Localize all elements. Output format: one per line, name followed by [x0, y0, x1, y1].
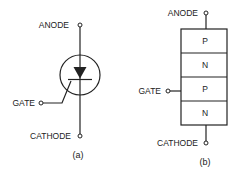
layer-1-label: P — [202, 36, 208, 46]
gate-terminal-a — [39, 101, 43, 105]
cathode-terminal-a — [78, 134, 82, 138]
anode-terminal-b — [204, 11, 208, 15]
diode-triangle-icon — [74, 67, 87, 79]
gate-lead-a — [43, 81, 71, 103]
cathode-label-a: CATHODE — [30, 131, 71, 141]
anode-label-b: ANODE — [168, 8, 199, 18]
gate-label-a: GATE — [12, 98, 35, 108]
cathode-terminal-b — [204, 141, 208, 145]
caption-a: (a) — [73, 150, 84, 160]
pnpn-structure: ANODE P N P N GATE CATHODE (b) — [138, 8, 227, 167]
layer-4-label: N — [202, 108, 208, 118]
gate-terminal-b — [166, 89, 170, 93]
gate-label-b: GATE — [138, 86, 161, 96]
cathode-label-b: CATHODE — [157, 138, 198, 148]
anode-terminal-a — [78, 23, 82, 27]
scr-symbol: ANODE GATE CATHODE (a) — [12, 20, 100, 160]
scr-diagram: ANODE GATE CATHODE (a) ANODE P N P N GAT… — [0, 0, 240, 178]
anode-label-a: ANODE — [39, 20, 70, 30]
layer-2-label: N — [202, 60, 208, 70]
layer-3-label: P — [202, 84, 208, 94]
caption-b: (b) — [200, 157, 211, 167]
